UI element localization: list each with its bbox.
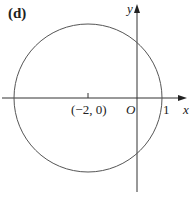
panel-label: (d) <box>8 6 26 21</box>
y-axis-arrow-icon <box>134 4 140 13</box>
x-axis-label: x <box>183 103 189 116</box>
center-label: (−2, 0) <box>71 103 107 116</box>
origin-label: O <box>126 103 135 116</box>
diagram-canvas <box>0 0 192 198</box>
x-axis-arrow-icon <box>178 95 187 101</box>
y-axis-label: y <box>127 2 133 15</box>
tick-label-1: 1 <box>163 103 170 116</box>
circle-diagram: (d) y x O 1 (−2, 0) <box>0 0 192 198</box>
